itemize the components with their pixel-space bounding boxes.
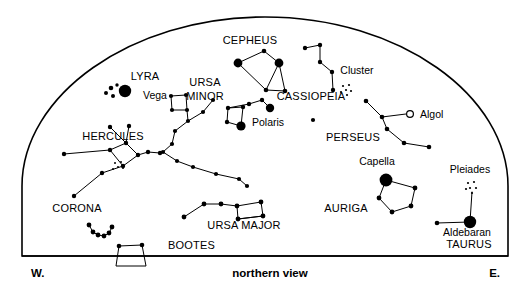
star-dot	[364, 99, 369, 104]
star-dot	[87, 223, 92, 228]
star-dot	[262, 49, 267, 54]
star-dot	[109, 86, 114, 91]
star-dot	[158, 151, 162, 155]
label-perseus: PERSEUS	[326, 131, 380, 143]
star-dot	[136, 153, 140, 157]
star-dot	[111, 94, 115, 98]
star-dot	[140, 243, 145, 248]
star-dot	[108, 148, 112, 152]
label-lyra: LYRA	[131, 70, 160, 82]
label-taurus: TAURUS	[446, 238, 492, 250]
star-dot	[110, 225, 115, 230]
label-cepheus: CEPHEUS	[223, 34, 278, 46]
label-corona: CORONA	[52, 202, 102, 214]
star-dot	[234, 59, 243, 68]
label-polaris: Polaris	[252, 116, 284, 128]
label-hercules: HERCULES	[82, 130, 144, 142]
star-dot	[377, 196, 382, 201]
label-capella: Capella	[359, 155, 395, 167]
star-dot	[202, 202, 207, 207]
star-dot	[409, 204, 414, 209]
star-dot	[186, 119, 190, 123]
star-dot	[318, 60, 322, 64]
star-dot	[390, 210, 395, 215]
star-dot	[214, 172, 218, 176]
star-vega	[119, 85, 131, 97]
star-dot	[311, 118, 315, 122]
star-dot	[226, 106, 230, 110]
star-capella	[380, 174, 393, 187]
star-chart: CEPHEUS LYRA URSA MINOR CASSIOPEIA HERCU…	[0, 0, 530, 291]
star-dot	[62, 152, 66, 156]
star-dot	[72, 194, 76, 198]
star-dot	[259, 200, 264, 205]
compass-east: E.	[489, 267, 500, 279]
star-dot	[117, 244, 122, 249]
star-dot	[303, 46, 307, 50]
label-auriga: AURIGA	[324, 202, 368, 214]
star-dot	[275, 59, 284, 68]
chart-caption: northern view	[232, 267, 307, 279]
label-ursa-major: URSA MAJOR	[207, 219, 281, 231]
star-dot	[266, 104, 274, 112]
star-dot	[100, 171, 104, 175]
star-algol	[407, 111, 414, 118]
star-dot	[201, 110, 205, 114]
star-dot	[219, 202, 224, 207]
star-dot	[264, 88, 269, 93]
star-dot	[182, 215, 187, 220]
label-bootes: BOOTES	[168, 239, 215, 251]
star-dot	[330, 70, 334, 74]
star-dot	[185, 108, 189, 112]
background-stars	[311, 118, 315, 122]
compass-west: W.	[31, 267, 44, 279]
star-dot	[260, 98, 264, 102]
star-dot	[107, 231, 112, 236]
star-dot	[235, 204, 240, 209]
star-dot	[170, 142, 174, 146]
star-dot	[104, 91, 108, 95]
star-dot	[108, 125, 112, 129]
star-dot	[241, 105, 245, 109]
label-cluster: Cluster	[340, 64, 374, 76]
star-dot	[245, 184, 249, 188]
star-dot	[261, 214, 266, 219]
star-dot	[170, 108, 174, 112]
label-cassiopeia: CASSIOPEIA	[277, 90, 346, 102]
star-dot	[413, 186, 418, 191]
star-dot	[247, 102, 251, 106]
star-dot	[91, 230, 96, 235]
star-dot	[435, 221, 440, 226]
star-dot	[402, 141, 407, 146]
star-dot	[115, 83, 118, 86]
star-dot	[169, 94, 173, 98]
star-dot	[146, 150, 150, 154]
star-dot	[127, 124, 131, 128]
star-dot	[427, 145, 432, 150]
star-dot	[191, 165, 195, 169]
star-dot	[385, 127, 390, 132]
label-vega: Vega	[143, 89, 167, 101]
star-dot	[173, 129, 177, 133]
star-polaris	[236, 121, 245, 130]
label-algol: Algol	[420, 108, 443, 120]
label-aldebaran: Aldebaran	[443, 226, 491, 238]
star-dot	[318, 43, 322, 47]
star-dot	[237, 177, 241, 181]
star-dot	[96, 233, 101, 238]
star-dot	[175, 159, 179, 163]
star-dot	[102, 234, 107, 239]
sky-dome-svg: CEPHEUS LYRA URSA MINOR CASSIOPEIA HERCU…	[0, 0, 530, 291]
star-dot	[380, 115, 385, 120]
star-dot	[225, 120, 229, 124]
label-minor: MINOR	[186, 90, 224, 102]
label-pleiades: Pleiades	[450, 163, 490, 175]
label-ursa: URSA	[189, 76, 221, 88]
